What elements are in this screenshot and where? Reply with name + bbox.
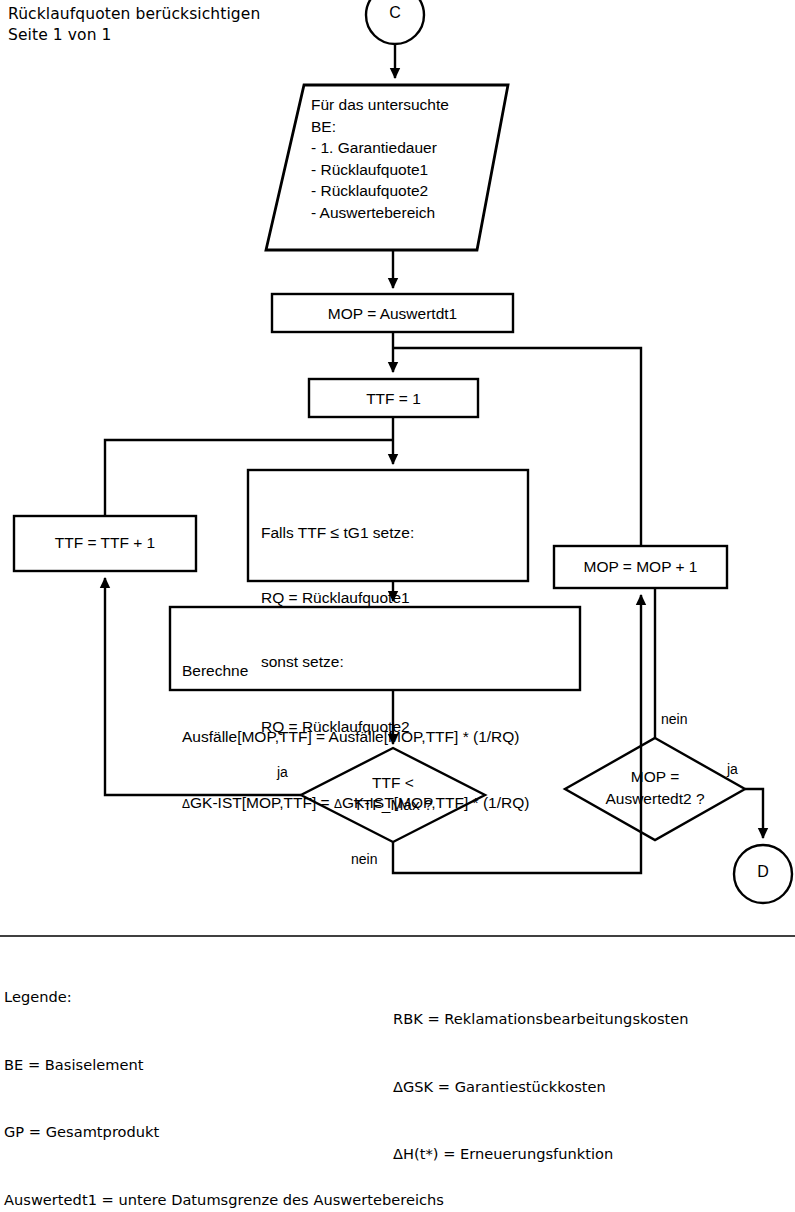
legend-left-item-2: Auswertedt1 = untere Datumsgrenze des Au… — [4, 1189, 424, 1212]
legend-title: Legende: — [4, 986, 424, 1009]
legend-right-item-2: ΔH(t*) = Erneuerungsfunktion — [393, 1143, 793, 1166]
berechne-line3-lhs: GK-IST[MOP,TTF] = — [190, 794, 334, 811]
mop-incr-text: MOP = MOP + 1 — [554, 556, 727, 578]
legend-left-item-0: BE = Basiselement — [4, 1054, 424, 1077]
rq-select-line1-b: tG1 setze: — [339, 524, 414, 541]
edge-label-ttf-ja: ja — [277, 765, 288, 780]
legend-left: Legende: BE = Basiselement GP = Gesamtpr… — [4, 941, 424, 1212]
berechne-line2: Ausfälle[MOP,TTF] = Ausfälle[MOP,TTF] * … — [182, 726, 578, 748]
legend-left-item-1: GP = Gesamtprodukt — [4, 1121, 424, 1144]
mop-init-text: MOP = Auswertdt1 — [272, 303, 513, 325]
delta-glyph-lhs: Δ — [182, 797, 190, 811]
connector-c-label: C — [380, 4, 410, 22]
ttf-check-text: TTF < TTF_Max ? — [328, 772, 458, 815]
berechne-line1: Berechne — [182, 660, 578, 682]
edge-label-mop-ja: ja — [727, 762, 738, 777]
legend-right-item-1: ΔGSK = Garantiestückkosten — [393, 1076, 793, 1099]
connector-d-label: D — [748, 863, 778, 881]
berechne-text: Berechne Ausfälle[MOP,TTF] = Ausfälle[MO… — [182, 616, 578, 859]
rq-select-line1: Falls TTF ≤ tG1 setze: — [261, 522, 523, 544]
edge-mopcheck-ja — [745, 789, 763, 838]
edge-label-mop-nein: nein — [661, 712, 687, 727]
rq-select-line1-a: Falls TTF — [261, 524, 330, 541]
mop-check-text: MOP = Auswertedt2 ? — [580, 766, 730, 809]
input-be-text: Für das untersuchte BE: - 1. Garantiedau… — [311, 94, 511, 223]
rq-select-line2: RQ = Rücklaufquote1 — [261, 587, 523, 609]
ttf-incr-text: TTF = TTF + 1 — [14, 532, 196, 554]
edge-label-ttf-nein: nein — [351, 852, 377, 867]
legend-right-item-0: RBK = Reklamationsbearbeitungskosten — [393, 1008, 793, 1031]
legend-right: RBK = Reklamationsbearbeitungskosten ΔGS… — [393, 963, 793, 1211]
ttf-init-text: TTF = 1 — [309, 388, 478, 410]
less-or-equal-glyph: ≤ — [330, 524, 339, 541]
